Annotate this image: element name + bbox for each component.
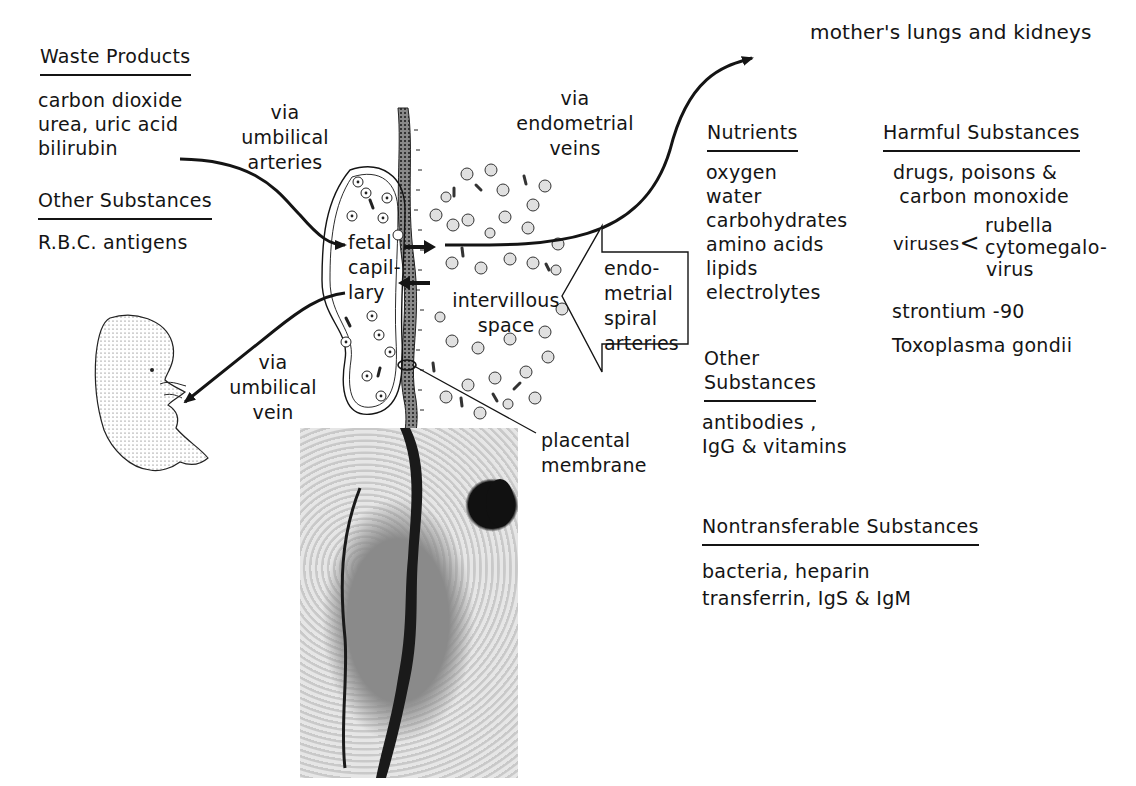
list-item: virus [985,258,1107,280]
list-item: drugs, poisons & [893,160,1069,184]
fetal-capillary-label: fetal capil- lary [348,230,401,305]
list-item: carbon dioxide [38,88,183,112]
nontransferable-substances-heading: Nontransferable Substances [702,514,979,546]
list-item: strontium -90 [892,294,1072,328]
list-item: water [706,184,847,208]
via-umbilical-vein-label: via umbilical vein [218,350,328,425]
nutrients-list: oxygen water carbohydrates amino acids l… [706,160,847,304]
list-item: antibodies , [702,410,847,434]
waste-products-list: carbon dioxide urea, uric acid bilirubin [38,88,183,160]
harmful-viruses-list: rubella cytomegalo- virus [985,214,1107,280]
list-item: Toxoplasma gondii [892,328,1072,362]
nontransferable-substances-list: bacteria, heparin transferrin, IgS & IgM [702,558,911,612]
list-item: bilirubin [38,136,183,160]
placental-membrane-pointer [414,366,536,433]
via-umbilical-arteries-label: via umbilical arteries [230,100,340,175]
placental-membrane-micrograph [300,428,518,778]
list-item: cytomegalo- [985,236,1107,258]
waste-products-heading: Waste Products [40,44,191,76]
list-item: bacteria, heparin [702,558,911,585]
placental-membrane-label: placental membrane [541,428,647,478]
list-item: lipids [706,256,847,280]
harmful-more-list: strontium -90 Toxoplasma gondii [892,294,1072,362]
list-item: R.B.C. antigens [38,230,188,254]
other-substances-fetal-list: R.B.C. antigens [38,230,188,254]
list-item: rubella [985,214,1107,236]
bracket-icon: < [959,229,979,257]
mothers-lungs-kidneys-label: mother's lungs and kidneys [810,20,1092,45]
endometrial-spiral-arteries-label: endo- metrial spiral arteries [604,256,679,356]
list-item: oxygen [706,160,847,184]
fetus-illustration [95,315,208,470]
via-endometrial-veins-label: via endometrial veins [505,86,645,161]
list-item: electrolytes [706,280,847,304]
list-item: transferrin, IgS & IgM [702,585,911,612]
harmful-viruses-label: viruses< [893,230,980,256]
other-substances-maternal-heading: Other Substances [704,346,816,402]
intervillous-space-label: intervillous space [446,288,566,338]
other-substances-fetal-heading: Other Substances [38,188,212,220]
list-item: carbon monoxide [893,184,1069,208]
nutrients-heading: Nutrients [707,120,798,152]
list-item: amino acids [706,232,847,256]
list-item: carbohydrates [706,208,847,232]
harmful-substances-list: drugs, poisons & carbon monoxide [893,160,1069,208]
other-substances-maternal-list: antibodies , IgG & vitamins [702,410,847,458]
harmful-substances-heading: Harmful Substances [883,120,1080,152]
list-item: urea, uric acid [38,112,183,136]
list-item: IgG & vitamins [702,434,847,458]
